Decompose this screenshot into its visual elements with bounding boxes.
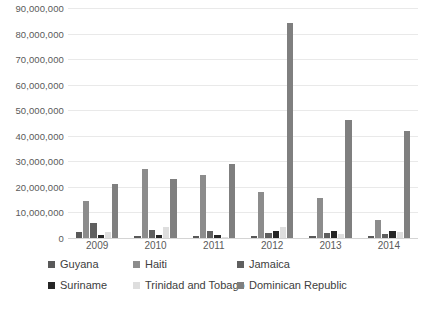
legend-item[interactable]: Guyana bbox=[48, 258, 99, 270]
bar bbox=[134, 236, 140, 238]
bar bbox=[280, 227, 286, 239]
bar bbox=[331, 231, 337, 238]
bar bbox=[142, 169, 148, 238]
bar bbox=[382, 234, 388, 238]
bar bbox=[273, 231, 279, 238]
bar bbox=[170, 179, 176, 238]
bar bbox=[105, 232, 111, 238]
y-axis-tick-labels: 90,000,00080,000,00070,000,00060,000,000… bbox=[0, 0, 68, 238]
y-axis-tick-label: 90,000,000 bbox=[15, 3, 64, 14]
legend-label: Jamaica bbox=[249, 258, 290, 270]
legend-item[interactable]: Haiti bbox=[133, 258, 167, 270]
legend-row: SurinameTrinidad and TobagoDominican Rep… bbox=[0, 279, 426, 298]
y-axis-tick-label: 30,000,000 bbox=[15, 156, 64, 167]
bar-group bbox=[301, 8, 359, 238]
legend-item[interactable]: Jamaica bbox=[237, 258, 290, 270]
legend-item[interactable]: Dominican Republic bbox=[237, 279, 347, 291]
legend-swatch-icon bbox=[133, 261, 140, 268]
bar bbox=[375, 220, 381, 238]
legend-label: Haiti bbox=[145, 258, 167, 270]
bar bbox=[149, 230, 155, 238]
plot-area: 90,000,00080,000,00070,000,00060,000,000… bbox=[0, 0, 426, 248]
gridline bbox=[68, 238, 418, 239]
bar bbox=[258, 192, 264, 238]
legend-swatch-icon bbox=[48, 282, 55, 289]
x-axis-tick-label: 2014 bbox=[378, 240, 400, 251]
y-axis-tick-label: 0 bbox=[59, 233, 64, 244]
y-axis-tick-label: 40,000,000 bbox=[15, 130, 64, 141]
legend-item[interactable]: Suriname bbox=[48, 279, 107, 291]
bar bbox=[214, 235, 220, 238]
bar-chart: 90,000,00080,000,00070,000,00060,000,000… bbox=[0, 0, 426, 310]
bar bbox=[251, 236, 257, 238]
bar-group bbox=[68, 8, 126, 238]
bar bbox=[229, 164, 235, 238]
bar bbox=[83, 201, 89, 238]
legend-item[interactable]: Trinidad and Tobago bbox=[133, 279, 245, 291]
bar-group bbox=[126, 8, 184, 238]
bar-group bbox=[185, 8, 243, 238]
y-axis-tick-label: 60,000,000 bbox=[15, 79, 64, 90]
bar bbox=[98, 235, 104, 238]
bar bbox=[200, 175, 206, 238]
x-axis-tick-labels: 200920102011201220132014 bbox=[68, 240, 418, 256]
bar bbox=[389, 231, 395, 238]
bar bbox=[338, 234, 344, 238]
bar bbox=[345, 120, 351, 238]
bar bbox=[317, 198, 323, 238]
x-axis-tick-label: 2009 bbox=[86, 240, 108, 251]
plot-grid bbox=[68, 8, 418, 238]
legend-swatch-icon bbox=[237, 261, 244, 268]
legend-row: GuyanaHaitiJamaica bbox=[0, 258, 426, 277]
bar bbox=[404, 131, 410, 238]
bar bbox=[90, 223, 96, 238]
bar bbox=[265, 233, 271, 238]
y-axis-tick-label: 20,000,000 bbox=[15, 181, 64, 192]
bar bbox=[397, 232, 403, 238]
legend-label: Suriname bbox=[60, 279, 107, 291]
bar-group bbox=[360, 8, 418, 238]
x-axis-tick-label: 2011 bbox=[203, 240, 225, 251]
bar-group bbox=[243, 8, 301, 238]
legend-label: Dominican Republic bbox=[249, 279, 347, 291]
y-axis-tick-label: 80,000,000 bbox=[15, 28, 64, 39]
x-axis-tick-label: 2010 bbox=[144, 240, 166, 251]
bar bbox=[207, 231, 213, 238]
legend-label: Trinidad and Tobago bbox=[145, 279, 245, 291]
y-axis-tick-label: 10,000,000 bbox=[15, 207, 64, 218]
legend-label: Guyana bbox=[60, 258, 99, 270]
x-axis-tick-label: 2012 bbox=[261, 240, 283, 251]
bar bbox=[222, 237, 228, 238]
legend: GuyanaHaitiJamaica SurinameTrinidad and … bbox=[0, 258, 426, 304]
y-axis-tick-label: 50,000,000 bbox=[15, 105, 64, 116]
bar-groups bbox=[68, 8, 418, 238]
bar bbox=[163, 227, 169, 238]
legend-swatch-icon bbox=[48, 261, 55, 268]
y-axis-tick-label: 70,000,000 bbox=[15, 54, 64, 65]
legend-swatch-icon bbox=[237, 282, 244, 289]
bar bbox=[324, 233, 330, 238]
bar bbox=[368, 236, 374, 238]
bar bbox=[309, 236, 315, 238]
bar bbox=[112, 184, 118, 238]
bar bbox=[156, 235, 162, 238]
bar bbox=[76, 232, 82, 238]
legend-swatch-icon bbox=[133, 282, 140, 289]
x-axis-tick-label: 2013 bbox=[319, 240, 341, 251]
bar bbox=[193, 236, 199, 238]
bar bbox=[287, 23, 293, 238]
